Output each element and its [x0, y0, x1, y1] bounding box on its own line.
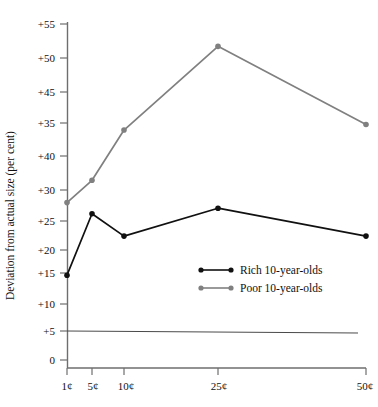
series-line: [67, 46, 366, 202]
y-tick-label: +15: [38, 267, 56, 279]
x-axis-tick-labels: 1¢ 5¢ 10¢ 25¢ 50¢: [62, 380, 374, 392]
data-point: [215, 44, 221, 50]
line-chart: Deviation from actual size (per cent) +5…: [0, 0, 378, 407]
data-point: [89, 211, 95, 217]
data-point: [363, 122, 369, 128]
y-axis-title: Deviation from actual size (per cent): [4, 131, 17, 300]
y-tick-label: +5: [43, 325, 55, 337]
x-tick-label: 25¢: [211, 380, 228, 392]
chart-figure: Deviation from actual size (per cent) +5…: [0, 0, 378, 407]
x-tick-label: 5¢: [88, 380, 99, 392]
y-tick-label: +40: [38, 150, 56, 162]
x-axis-ticks: [67, 368, 366, 375]
y-tick-label: +55: [38, 18, 56, 30]
data-point: [121, 127, 127, 133]
chart-legend: Rich 10-year-olds Poor 10-year-olds: [198, 264, 323, 295]
y-axis-ticks: [60, 24, 67, 360]
series-rich: [64, 205, 369, 278]
y-axis-tick-labels: +55 +50 +45 +35 +40 +30 +25 +20 +15 +10 …: [38, 18, 56, 366]
y-tick-label: +35: [38, 117, 56, 129]
x-tick-label: 1¢: [62, 380, 73, 392]
legend-label-poor: Poor 10-year-olds: [240, 282, 323, 295]
data-point: [121, 233, 127, 239]
y-tick-label: 0: [50, 354, 56, 366]
y-tick-label: +50: [38, 52, 56, 64]
series-poor: [64, 44, 369, 206]
x-tick-label: 10¢: [118, 380, 135, 392]
data-point: [64, 272, 70, 278]
y-tick-label: +10: [38, 298, 56, 310]
data-series-layer: [64, 44, 369, 278]
legend-entry-poor: Poor 10-year-olds: [198, 282, 323, 295]
legend-entry-rich: Rich 10-year-olds: [198, 264, 323, 277]
zero-reference-line: [67, 331, 358, 333]
y-tick-label: +25: [38, 215, 56, 227]
data-point: [64, 200, 70, 206]
legend-label-rich: Rich 10-year-olds: [240, 264, 323, 277]
y-tick-label: +20: [38, 244, 56, 256]
y-tick-label: +45: [38, 86, 56, 98]
data-point: [89, 177, 95, 183]
data-point: [215, 205, 221, 211]
data-point: [363, 233, 369, 239]
x-tick-label: 50¢: [357, 380, 374, 392]
y-tick-label: +30: [38, 184, 56, 196]
